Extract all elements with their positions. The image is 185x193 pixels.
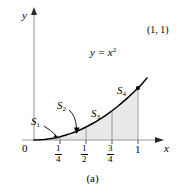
region-label-s4: S4 — [117, 85, 126, 96]
s1-leader-line — [44, 126, 57, 136]
fraction-numerator: 3 — [107, 144, 114, 153]
curve-equation-exponent: 2 — [113, 46, 117, 54]
x-axis-label: x — [164, 143, 169, 154]
tick-label-quarter: 1 4 — [55, 144, 62, 165]
region-base: S — [117, 84, 123, 96]
region-label-s1: S1 — [31, 116, 40, 127]
fraction-denominator: 4 — [55, 155, 62, 164]
region-sub: 1 — [37, 121, 41, 129]
tick-label-one: 1 — [135, 144, 141, 155]
fraction-numerator: 1 — [55, 144, 62, 153]
fraction-denominator: 4 — [107, 155, 114, 164]
fraction-numerator: 1 — [81, 144, 88, 153]
fraction-three-quarters: 3 4 — [107, 144, 114, 165]
region-base: S — [31, 115, 37, 127]
fraction-one-quarter: 1 4 — [55, 144, 62, 165]
y-axis-arrowhead — [31, 7, 37, 15]
tick-label-three-quarters: 3 4 — [107, 144, 114, 165]
point-label-1-1: (1, 1) — [147, 25, 169, 35]
point-marker-1-1 — [136, 86, 140, 90]
region-base: S — [57, 99, 63, 111]
fraction-denominator: 2 — [81, 155, 88, 164]
curve-equation-label: y = x2 — [90, 47, 116, 58]
figure-caption: (a) — [0, 172, 185, 184]
region-label-s3: S3 — [91, 108, 100, 119]
region-sub: 2 — [63, 105, 67, 113]
origin-label: 0 — [22, 143, 28, 154]
region-base: S — [91, 107, 97, 119]
curve-equation-base: y = x — [90, 46, 113, 58]
tick-label-half: 1 2 — [81, 144, 88, 165]
region-sub: 3 — [97, 113, 101, 121]
region-sub: 4 — [123, 90, 127, 98]
x-axis-arrowhead — [155, 137, 164, 143]
region-label-s2: S2 — [57, 100, 66, 111]
fraction-one-half: 1 2 — [81, 144, 88, 165]
s2-leader-line — [69, 110, 77, 128]
y-axis-label: y — [22, 10, 27, 21]
figure-container: y x 0 1 4 1 2 3 4 1 y = x2 (1, 1) S1 S2 … — [0, 0, 185, 193]
